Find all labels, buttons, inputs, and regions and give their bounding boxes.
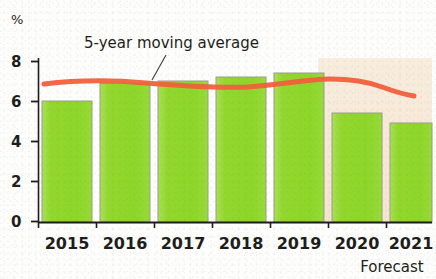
bar-2019[interactable] bbox=[274, 73, 324, 222]
bar-2018[interactable] bbox=[216, 77, 266, 222]
forecast-caption: Forecast bbox=[360, 258, 424, 276]
y-tick-label-2: 2 bbox=[11, 173, 21, 191]
x-tick-label-2021: 2021 bbox=[389, 234, 434, 253]
bar-2021[interactable] bbox=[390, 123, 432, 222]
y-tick-label-4: 4 bbox=[11, 133, 21, 151]
x-tick-label-2015: 2015 bbox=[45, 234, 90, 253]
bar-2015[interactable] bbox=[42, 101, 92, 222]
chart-container: % 8 6 4 2 0 2015 2016 2017 2018 2019 202… bbox=[0, 0, 436, 279]
x-axis bbox=[38, 222, 432, 228]
y-tick-label-8: 8 bbox=[11, 53, 21, 71]
x-tick-label-2019: 2019 bbox=[277, 234, 322, 253]
moving-average-leader-line bbox=[152, 55, 166, 80]
y-axis bbox=[31, 58, 39, 223]
x-tick-label-2016: 2016 bbox=[103, 234, 148, 253]
bar-2017[interactable] bbox=[158, 81, 208, 222]
x-tick-label-2020: 2020 bbox=[335, 234, 380, 253]
x-tick-label-2017: 2017 bbox=[161, 234, 206, 253]
y-tick-label-0: 0 bbox=[11, 213, 21, 231]
bar-2016[interactable] bbox=[100, 83, 150, 222]
y-axis-unit-label: % bbox=[11, 12, 23, 27]
y-tick-label-6: 6 bbox=[11, 93, 21, 111]
x-tick-label-2018: 2018 bbox=[219, 234, 264, 253]
bar-chart: % 8 6 4 2 0 2015 2016 2017 2018 2019 202… bbox=[0, 0, 436, 279]
bar-2020[interactable] bbox=[332, 113, 382, 222]
moving-average-callout-label: 5-year moving average bbox=[84, 34, 259, 52]
